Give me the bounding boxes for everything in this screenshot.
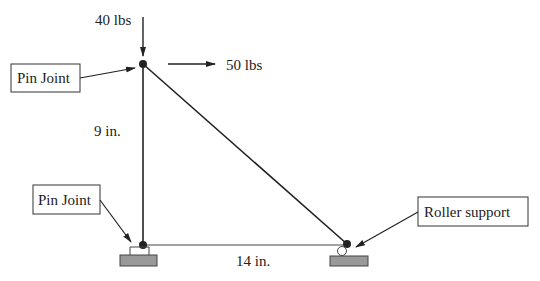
top-joint (139, 60, 147, 68)
top-pin-pointer-arrow-icon (80, 68, 135, 78)
roller-icon (338, 247, 347, 256)
vertical-load-label: 40 lbs (95, 12, 131, 28)
roller-pointer-arrow-icon (356, 212, 418, 247)
top-pin-callout-label: Pin Joint (17, 70, 71, 86)
width-dimension: 14 in. (236, 253, 270, 269)
right-ground (330, 256, 368, 266)
bottom-left-joint (139, 241, 147, 249)
diagonal-member (143, 64, 347, 244)
roller-callout-label: Roller support (424, 204, 511, 220)
truss-diagram: 40 lbs 50 lbs 9 in. 14 in. Pin Joint Pin… (0, 0, 540, 281)
bottom-pin-callout-label: Pin Joint (38, 192, 92, 208)
bottom-pin-pointer-arrow-icon (100, 200, 131, 242)
horizontal-load-label: 50 lbs (226, 57, 262, 73)
left-ground (120, 255, 157, 266)
height-dimension: 9 in. (94, 123, 121, 139)
